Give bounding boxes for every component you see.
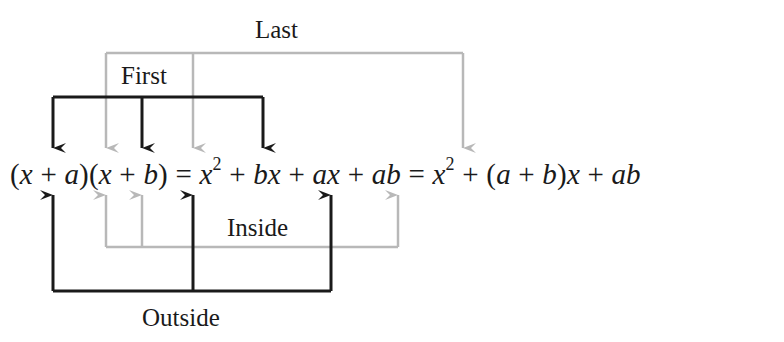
label-last: Last	[255, 16, 298, 44]
label-outside: Outside	[142, 304, 220, 332]
first-connector	[53, 97, 263, 148]
outside-connector	[53, 195, 331, 291]
label-inside: Inside	[227, 214, 288, 242]
foil-equation: (x + a)(x + b) = x2 + bx + ax + ab = x2 …	[10, 158, 641, 191]
label-first: First	[121, 62, 167, 90]
